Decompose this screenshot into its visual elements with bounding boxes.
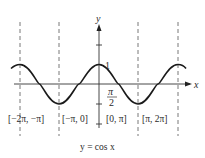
y-axis-label: y — [95, 13, 101, 24]
interval-label-4: [π, 2π] — [142, 114, 167, 124]
interval-label-2: [−π, 0] — [62, 114, 88, 124]
cosine-graph: y x 1 π 2 [−2π, −π] [−π, 0] [0, π] [π, 2… — [0, 0, 205, 158]
caption: y = cos x — [80, 142, 115, 152]
y-axis-arrow-icon — [97, 24, 102, 31]
pi-over-two-den: 2 — [109, 97, 114, 108]
interval-label-1: [−2π, −π] — [8, 114, 44, 124]
x-axis-arrow-icon — [185, 82, 192, 87]
x-axis-label: x — [193, 79, 199, 90]
pi-over-two-num: π — [108, 86, 114, 97]
y-tick-one: 1 — [105, 60, 110, 71]
interval-label-3: [0, π] — [106, 114, 127, 124]
